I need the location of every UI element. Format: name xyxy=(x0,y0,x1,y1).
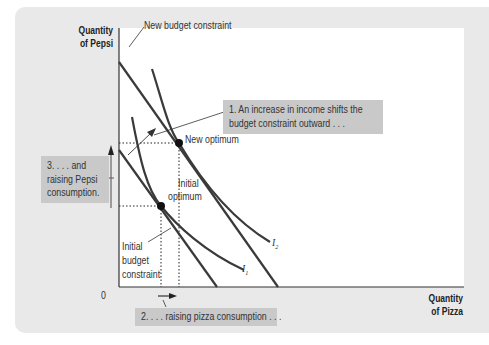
callout-3-line1: 3. . . . and xyxy=(47,159,99,173)
initial-budget-line1: Initial xyxy=(122,240,160,254)
initial-optimum-line1: Initial xyxy=(168,177,202,190)
callout-3-line2: raising Pepsi xyxy=(47,173,99,187)
curve-i1-label: I1 xyxy=(242,262,248,280)
y-axis-label-line2: of Pepsi xyxy=(68,37,113,50)
pizza-right-arrow xyxy=(158,293,177,299)
x-axis-label-line1: Quantity xyxy=(418,292,463,305)
new-optimum-point xyxy=(175,139,183,147)
new-budget-constraint-label: New budget constraint xyxy=(144,19,232,32)
callout-income-shift: 1. An increase in income shifts the budg… xyxy=(223,100,383,134)
initial-optimum-line2: optimum xyxy=(168,190,202,203)
callout-3-line3: consumption. xyxy=(47,186,99,200)
curve-i2-subscript: 2 xyxy=(275,243,278,251)
initial-optimum-label: Initial optimum xyxy=(168,177,202,203)
callout-pizza-consumption: 2. . . . raising pizza consumption . . . xyxy=(135,308,277,326)
initial-optimum-point xyxy=(157,202,165,210)
origin-label: 0 xyxy=(101,289,106,302)
x-axis-label: Quantity of Pizza xyxy=(418,292,463,318)
curve-i2-label: I2 xyxy=(272,236,278,254)
initial-budget-line3: constraint xyxy=(122,268,160,282)
callout-1-text: 1. An increase in income shifts the budg… xyxy=(229,103,363,131)
callout-1-line1: 1. An increase in income shifts the xyxy=(229,103,363,117)
callout-1-line2: budget constraint outward . . . xyxy=(229,117,363,131)
callout-2-text: 2. . . . raising pizza consumption . . . xyxy=(141,310,281,324)
curve-i1-subscript: 1 xyxy=(245,269,248,277)
y-axis-label: Quantity of Pepsi xyxy=(68,24,113,50)
initial-budget-line2: budget xyxy=(122,254,160,268)
x-axis-label-line2: of Pizza xyxy=(418,305,463,318)
shift-arrow xyxy=(128,128,156,155)
new-optimum-label: New optimum xyxy=(185,133,239,146)
callout-3-text: 3. . . . and raising Pepsi consumption. xyxy=(47,159,99,200)
callout-pepsi-consumption: 3. . . . and raising Pepsi consumption. xyxy=(41,156,109,203)
initial-budget-constraint-label: Initial budget constraint xyxy=(122,240,160,282)
y-axis-label-line1: Quantity xyxy=(68,24,113,37)
